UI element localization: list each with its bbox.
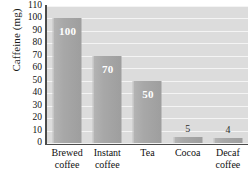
x-axis-category-label-line: Instant bbox=[87, 147, 127, 159]
bar-value-label: 70 bbox=[94, 63, 122, 75]
x-axis-category-label-line: Cocoa bbox=[168, 147, 208, 159]
x-axis-category-label-line: coffee bbox=[208, 159, 248, 171]
y-axis-tick-label: 0 bbox=[16, 138, 42, 148]
bar-slot: 70 bbox=[87, 6, 127, 143]
y-axis-tick-label: 70 bbox=[16, 51, 42, 61]
bar[interactable]: 50 bbox=[133, 81, 162, 143]
x-axis-category-label: Instantcoffee bbox=[87, 147, 127, 170]
gridline bbox=[47, 143, 248, 144]
bar-value-label: 4 bbox=[225, 124, 230, 135]
y-axis-tick-label: 60 bbox=[16, 64, 42, 74]
y-axis-tick-label: 40 bbox=[16, 88, 42, 98]
bar[interactable]: 70 bbox=[93, 56, 122, 143]
caffeine-bar-chart: Caffeine (mg) 1101009080706050403020100 … bbox=[0, 0, 249, 183]
bar-value-label: 5 bbox=[185, 123, 190, 134]
bar-slot: 50 bbox=[127, 6, 167, 143]
bars-layer: 100705054 bbox=[47, 6, 248, 143]
y-axis-tick-label: 100 bbox=[16, 14, 42, 24]
x-axis-category-label: Decafcoffee bbox=[208, 147, 248, 170]
x-axis-category-label-line: coffee bbox=[87, 159, 127, 171]
x-axis-category-label-line: coffee bbox=[47, 159, 87, 171]
y-axis-tick-label: 110 bbox=[16, 1, 42, 11]
y-axis-tick-labels: 1101009080706050403020100 bbox=[16, 6, 42, 144]
x-axis-category-labels: BrewedcoffeeInstantcoffeeTeaCocoaDecafco… bbox=[47, 147, 248, 181]
x-axis-category-label: Tea bbox=[127, 147, 167, 159]
bar[interactable] bbox=[213, 138, 242, 143]
bar-value-label: 100 bbox=[54, 25, 82, 37]
y-axis-tick-label: 50 bbox=[16, 76, 42, 86]
bar-value-label: 50 bbox=[134, 88, 162, 100]
y-axis-tick-label: 30 bbox=[16, 101, 42, 111]
x-axis-category-label: Cocoa bbox=[168, 147, 208, 159]
bar-slot: 100 bbox=[47, 6, 87, 143]
y-axis-tick-label: 20 bbox=[16, 113, 42, 123]
y-axis-tick-label: 90 bbox=[16, 26, 42, 36]
bar-slot: 5 bbox=[168, 6, 208, 143]
bar[interactable] bbox=[173, 137, 202, 143]
y-axis-tick-label: 80 bbox=[16, 39, 42, 49]
bar[interactable]: 100 bbox=[53, 18, 82, 143]
x-axis-category-label: Brewedcoffee bbox=[47, 147, 87, 170]
x-axis-category-label-line: Tea bbox=[127, 147, 167, 159]
y-axis-tick-label: 10 bbox=[16, 126, 42, 136]
x-axis-category-label-line: Brewed bbox=[47, 147, 87, 159]
bar-slot: 4 bbox=[208, 6, 248, 143]
x-axis-category-label-line: Decaf bbox=[208, 147, 248, 159]
plot-area: 100705054 bbox=[47, 6, 248, 143]
